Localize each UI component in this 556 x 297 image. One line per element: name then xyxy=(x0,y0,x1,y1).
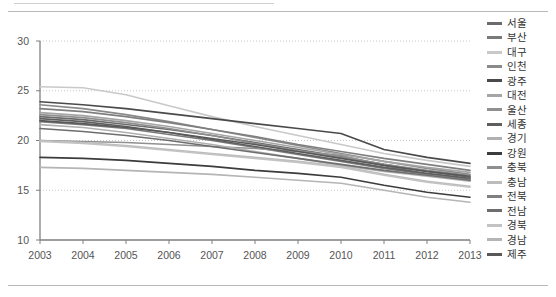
chart-figure: 1015202530 20032004200520062007200820092… xyxy=(0,0,556,297)
x-tick-label: 2013 xyxy=(458,249,481,261)
legend-item[interactable]: 울산 xyxy=(487,103,553,117)
legend-item[interactable]: 대전 xyxy=(487,88,553,102)
x-tick-label: 2008 xyxy=(243,249,266,261)
y-tick-label: 20 xyxy=(17,134,29,146)
legend-item-label: 전북 xyxy=(507,191,527,202)
legend-item[interactable]: 경남 xyxy=(487,233,553,247)
series-lines xyxy=(40,87,470,202)
legend-line-swatch-icon xyxy=(487,79,502,82)
x-tick-label: 2003 xyxy=(28,249,51,261)
legend-line-swatch-icon xyxy=(487,224,502,227)
legend-item-label: 제주 xyxy=(507,249,527,260)
legend-item[interactable]: 경기 xyxy=(487,132,553,146)
x-tick-label: 2012 xyxy=(415,249,438,261)
x-tick-label: 2006 xyxy=(157,249,180,261)
x-tick-label: 2004 xyxy=(71,249,94,261)
plot-area: 1015202530 20032004200520062007200820092… xyxy=(0,20,480,278)
x-tick-label: 2007 xyxy=(200,249,223,261)
x-tick-label: 2011 xyxy=(373,249,396,261)
legend-line-swatch-icon xyxy=(487,195,502,198)
frame-rule-bottom xyxy=(8,285,548,286)
legend-line-swatch-icon xyxy=(487,253,502,256)
legend-item-label: 경남 xyxy=(507,235,527,246)
legend-item-label: 전남 xyxy=(507,206,527,217)
legend-line-swatch-icon xyxy=(487,65,502,68)
legend-item-label: 서울 xyxy=(507,18,527,29)
legend-line-swatch-icon xyxy=(487,36,502,39)
line-chart-svg xyxy=(0,20,480,278)
legend-item-label: 울산 xyxy=(507,105,527,116)
legend-item-label: 대전 xyxy=(507,90,527,101)
legend-item-label: 경북 xyxy=(507,220,527,231)
legend-item[interactable]: 서울 xyxy=(487,16,553,30)
legend-item[interactable]: 충북 xyxy=(487,160,553,174)
legend-line-swatch-icon xyxy=(487,181,502,184)
chart-legend: 서울부산대구인천광주대전울산세종경기강원충북충남전북전남경북경남제주 xyxy=(487,16,553,261)
legend-item[interactable]: 경북 xyxy=(487,218,553,232)
legend-item-label: 경기 xyxy=(507,133,527,144)
legend-item-label: 대구 xyxy=(507,47,527,58)
legend-line-swatch-icon xyxy=(487,94,502,97)
y-tick-label: 15 xyxy=(17,184,29,196)
legend-item[interactable]: 전남 xyxy=(487,204,553,218)
legend-item[interactable]: 강원 xyxy=(487,146,553,160)
legend-item-label: 강원 xyxy=(507,148,527,159)
legend-item-label: 충남 xyxy=(507,177,527,188)
x-tick-label: 2010 xyxy=(329,249,352,261)
legend-item[interactable]: 인천 xyxy=(487,59,553,73)
legend-line-swatch-icon xyxy=(487,152,502,155)
legend-item[interactable]: 대구 xyxy=(487,45,553,59)
legend-line-swatch-icon xyxy=(487,137,502,140)
y-tick-label: 25 xyxy=(17,84,29,96)
legend-item-label: 인천 xyxy=(507,61,527,72)
legend-item[interactable]: 제주 xyxy=(487,247,553,261)
legend-item[interactable]: 광주 xyxy=(487,74,553,88)
legend-line-swatch-icon xyxy=(487,238,502,241)
legend-item-label: 광주 xyxy=(507,76,527,87)
y-tick-label: 30 xyxy=(17,35,29,47)
x-tick-label: 2009 xyxy=(286,249,309,261)
legend-item-label: 부산 xyxy=(507,32,527,43)
legend-item-label: 세종 xyxy=(507,119,527,130)
legend-item[interactable]: 전북 xyxy=(487,189,553,203)
x-tick-label: 2005 xyxy=(114,249,137,261)
legend-line-swatch-icon xyxy=(487,22,502,25)
y-tick-label: 10 xyxy=(17,234,29,246)
frame-rule-top xyxy=(8,11,548,12)
legend-line-swatch-icon xyxy=(487,209,502,212)
legend-item[interactable]: 세종 xyxy=(487,117,553,131)
legend-item[interactable]: 충남 xyxy=(487,175,553,189)
legend-line-swatch-icon xyxy=(487,108,502,111)
header-rule-partial xyxy=(14,3,274,4)
legend-line-swatch-icon xyxy=(487,51,502,54)
legend-item[interactable]: 부산 xyxy=(487,30,553,44)
legend-line-swatch-icon xyxy=(487,166,502,169)
legend-item-label: 충북 xyxy=(507,162,527,173)
legend-line-swatch-icon xyxy=(487,123,502,126)
